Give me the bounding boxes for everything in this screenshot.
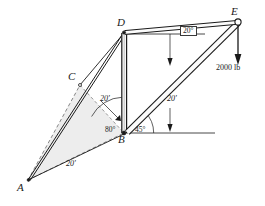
diagram-canvas: [0, 0, 265, 206]
joint-label-a: A: [17, 182, 24, 193]
dimension-label-bd: 20': [100, 95, 110, 103]
angle-label-45: 45°: [135, 126, 146, 134]
joint-pin-a: [27, 179, 30, 182]
angle-label-20: 20°: [180, 26, 197, 36]
dimension-arrow-upper: [167, 58, 172, 66]
truss-figure: A B C D E 20' 20' 20' 80° 45° 20° 2000 l…: [0, 0, 265, 206]
dimension-label-be: 20': [167, 95, 177, 103]
joint-pin-d: [122, 31, 125, 34]
load-magnitude-label: 2000 lb: [216, 64, 240, 72]
member-bd: [122, 33, 127, 133]
joint-label-c: C: [68, 71, 75, 82]
angle-label-80: 80°: [105, 126, 116, 134]
dimension-label-ab: 20': [66, 160, 76, 168]
joint-label-d: D: [117, 17, 125, 28]
member-cd: [80, 33, 124, 85]
load-arrow-e: [235, 25, 242, 65]
joint-label-b: B: [118, 134, 125, 145]
joint-pin-c: [79, 84, 82, 87]
joint-pin-e: [235, 19, 241, 25]
joint-label-e: E: [231, 6, 238, 17]
member-be: [125, 21, 240, 135]
dimension-arrow-lower: [167, 124, 172, 132]
